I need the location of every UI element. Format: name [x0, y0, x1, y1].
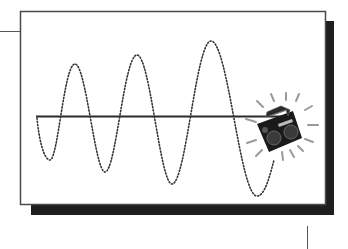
sound-wave-diagram [0, 0, 348, 249]
diagram-stage [0, 0, 348, 249]
